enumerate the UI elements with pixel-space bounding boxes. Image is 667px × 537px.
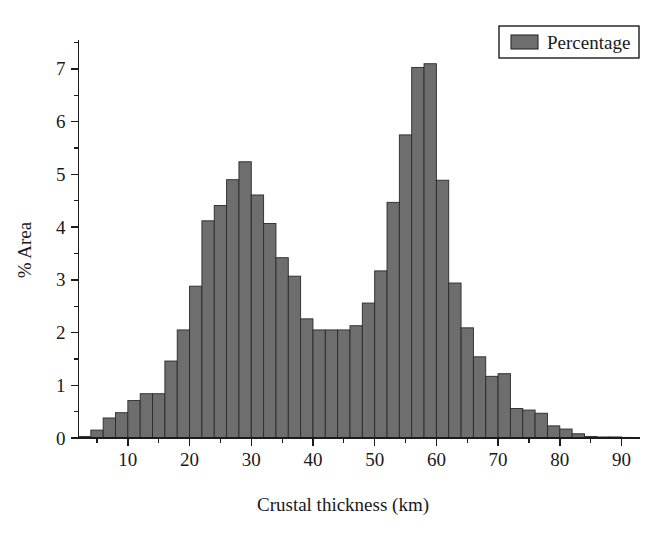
- histogram-bar: [276, 258, 288, 438]
- x-tick-label: 80: [550, 449, 569, 470]
- histogram-bar: [177, 330, 189, 438]
- histogram-bar: [449, 283, 461, 438]
- histogram-bar: [128, 401, 140, 438]
- legend-swatch-percentage: [511, 35, 538, 49]
- x-tick-label: 40: [303, 449, 322, 470]
- histogram-bar: [547, 426, 559, 438]
- histogram-bar: [362, 303, 374, 438]
- histogram-bar: [338, 330, 350, 438]
- histogram-bar: [424, 64, 436, 438]
- histogram-bar: [116, 413, 128, 438]
- histogram-bar: [375, 271, 387, 438]
- histogram-bar: [153, 394, 165, 438]
- x-tick-label: 50: [365, 449, 384, 470]
- y-tick-label: 7: [56, 58, 66, 79]
- x-tick-label: 90: [612, 449, 631, 470]
- histogram-bar: [473, 357, 485, 438]
- histogram-bar: [498, 374, 510, 438]
- x-tick-label: 30: [242, 449, 261, 470]
- y-tick-label: 3: [56, 269, 66, 290]
- x-tick-label: 60: [427, 449, 446, 470]
- y-tick-label: 2: [56, 322, 66, 343]
- histogram-bar: [412, 67, 424, 438]
- histogram-bar: [103, 418, 115, 438]
- histogram-bar: [301, 319, 313, 438]
- y-tick-label: 6: [56, 111, 66, 132]
- histogram-bar: [227, 180, 239, 438]
- histogram-bar: [387, 202, 399, 438]
- histogram-bar: [436, 180, 448, 438]
- x-tick-label: 20: [180, 449, 199, 470]
- legend-label-percentage: Percentage: [547, 32, 630, 53]
- y-tick-label: 0: [56, 428, 66, 449]
- histogram-bar: [264, 223, 276, 438]
- histogram-bar: [399, 135, 411, 438]
- y-axis-title: % Area: [14, 221, 35, 278]
- histogram-bar: [313, 330, 325, 438]
- y-tick-label: 1: [56, 375, 66, 396]
- x-tick-label: 10: [118, 449, 137, 470]
- histogram-bar: [251, 195, 263, 438]
- histogram-bar: [560, 429, 572, 438]
- histogram-bar: [140, 394, 152, 438]
- y-tick-label: 4: [56, 217, 66, 238]
- legend[interactable]: Percentage: [499, 26, 639, 58]
- histogram-bar: [91, 430, 103, 438]
- x-tick-label: 70: [489, 449, 508, 470]
- histogram-bar: [535, 413, 547, 438]
- histogram-bar: [350, 326, 362, 438]
- y-tick-label: 5: [56, 164, 66, 185]
- histogram-bar: [461, 328, 473, 438]
- histogram-bar: [202, 221, 214, 438]
- histogram-bar: [325, 330, 337, 438]
- histogram-bar: [165, 361, 177, 438]
- histogram-bar: [190, 286, 202, 438]
- histogram-bar: [288, 276, 300, 438]
- histogram-bar: [486, 376, 498, 438]
- x-axis-title: Crustal thickness (km): [257, 494, 429, 516]
- chart-canvas: 01234567 102030405060708090 Crustal thic…: [0, 0, 667, 537]
- histogram-bar: [523, 410, 535, 438]
- histogram-figure: 01234567 102030405060708090 Crustal thic…: [0, 0, 667, 537]
- histogram-bar: [214, 206, 226, 438]
- histogram-bar: [510, 408, 522, 438]
- histogram-bar: [239, 162, 251, 438]
